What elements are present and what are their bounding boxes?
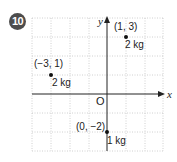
x-axis-arrow-icon (158, 91, 165, 97)
point-coord-label: (0, −2) (76, 121, 105, 132)
point-coord-label: (−3, 1) (34, 58, 63, 69)
point-0-neg2: (0, −2) 1 kg (76, 121, 126, 146)
point-mass-label: 2 kg (52, 77, 71, 88)
coordinate-plane: x y O (1, 3) 2 kg (−3, 1) 2 kg (0, −2) 1… (0, 0, 177, 162)
point-mass-label: 2 kg (125, 39, 144, 50)
y-axis-arrow-icon (104, 16, 110, 23)
origin-label: O (96, 95, 105, 107)
x-axis-label: x (166, 88, 172, 100)
point-neg3-1: (−3, 1) 2 kg (34, 58, 71, 88)
point-mass-label: 1 kg (107, 135, 126, 146)
point-coord-label: (1, 3) (114, 21, 137, 32)
point-1-3: (1, 3) 2 kg (114, 21, 144, 50)
y-axis-label: y (97, 15, 103, 27)
